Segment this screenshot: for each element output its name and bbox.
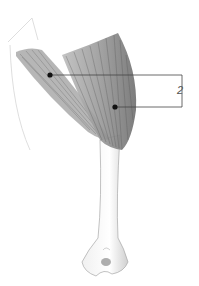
shoulder-outline <box>8 18 38 150</box>
bracket-label: 2 <box>177 84 183 96</box>
callout-dot-2 <box>112 104 117 109</box>
anatomy-figure <box>0 0 199 286</box>
humerus-bone <box>82 135 128 276</box>
callout-dot-1 <box>47 72 52 77</box>
